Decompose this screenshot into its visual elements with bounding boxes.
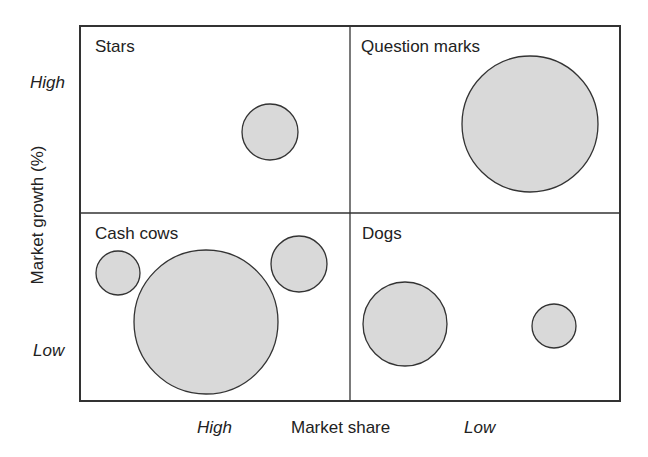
bubble-cash-cows [134, 250, 278, 394]
x-axis-low: Low [464, 418, 495, 438]
quadrant-label-cash-cows: Cash cows [95, 224, 178, 244]
bubble-stars [242, 104, 298, 160]
quadrant-label-question-marks: Question marks [361, 37, 480, 57]
y-axis-high: High [30, 73, 65, 93]
bubble-dogs [363, 282, 447, 366]
quadrant-label-dogs: Dogs [362, 224, 402, 244]
bubble-cash-cows [96, 251, 140, 295]
bubble-question-marks [462, 56, 598, 192]
bubble-cash-cows [271, 236, 327, 292]
bubble-dogs [532, 304, 576, 348]
x-axis-high: High [197, 418, 232, 438]
y-axis-low: Low [33, 341, 64, 361]
y-axis-label: Market growth (%) [28, 146, 48, 285]
quadrant-label-stars: Stars [95, 37, 135, 57]
x-axis-label: Market share [291, 418, 390, 438]
